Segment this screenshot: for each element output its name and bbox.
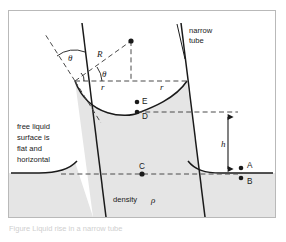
figure-frame: narrow tube free liquid surface is flat … xyxy=(8,10,276,218)
narrow-tube-label-line2: tube xyxy=(189,36,204,45)
liquid-fill-bulk-left xyxy=(9,162,93,217)
free-surface-label-line4: horizontal xyxy=(17,155,50,164)
point-label-B: B xyxy=(247,177,253,186)
liquid-fill-column xyxy=(75,81,205,217)
density-label-symbol: ρ xyxy=(150,195,156,205)
point-label-D: D xyxy=(142,112,148,121)
capillary-diagram-svg: narrow tube free liquid surface is flat … xyxy=(9,11,275,217)
radius-R-label: R xyxy=(96,49,103,59)
free-surface-label-line1: free liquid xyxy=(17,122,50,131)
radius-r-left-label: r xyxy=(101,82,105,92)
free-surface-label-line3: flat and xyxy=(17,144,42,153)
density-label-word: density xyxy=(113,195,137,204)
radius-r-right-label: r xyxy=(160,82,164,92)
figure-caption-faint: Figure Liquid rise in a narrow tube xyxy=(9,224,229,238)
point-label-A: A xyxy=(247,161,253,170)
point-marker-C xyxy=(139,171,144,176)
angle-arc-contact-small xyxy=(81,73,84,81)
point-marker-D xyxy=(135,110,140,115)
point-marker-A xyxy=(239,166,244,171)
point-marker-B xyxy=(239,176,244,181)
figure-root: narrow tube free liquid surface is flat … xyxy=(0,0,286,242)
point-marker-curvature-center xyxy=(128,38,133,43)
narrow-tube-label-line1: narrow xyxy=(189,26,213,35)
height-h-label: h xyxy=(221,139,226,149)
point-label-C: C xyxy=(139,162,145,171)
free-surface-label-line2: surface is xyxy=(17,133,50,142)
point-marker-E xyxy=(135,100,140,105)
theta-inner-label: θ xyxy=(102,69,107,79)
theta-outer-label: θ xyxy=(68,53,73,63)
point-label-E: E xyxy=(142,97,148,106)
